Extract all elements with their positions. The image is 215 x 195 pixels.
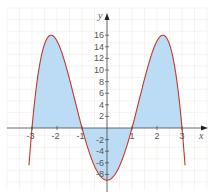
x-tick-label: 1 [129,131,134,141]
y-tick-label: 16 [94,30,104,40]
y-axis-arrow-icon [105,13,110,20]
y-tick-label: 4 [99,100,104,110]
y-tick-label: -2 [96,135,104,145]
y-tick-label: -4 [96,146,104,156]
y-tick-label: -6 [96,158,104,168]
y-tick-label: 8 [99,77,104,87]
y-tick-label: 12 [94,53,104,63]
y-axis-label: y [97,10,103,21]
x-axis-label: x [198,130,204,141]
x-tick-label: -3 [26,131,34,141]
y-tick-label: 14 [94,42,104,52]
y-tick-label: -8 [96,169,104,179]
y-tick-label: 2 [99,111,104,121]
x-tick-label: 3 [179,131,184,141]
function-plot: -3-2-1123161412108642-2-4-6-8 x y [0,0,215,195]
y-tick-label: 6 [99,88,104,98]
x-tick-label: 2 [154,131,159,141]
y-tick-label: 10 [94,65,104,75]
x-tick-label: -1 [76,131,84,141]
x-tick-label: -2 [51,131,59,141]
